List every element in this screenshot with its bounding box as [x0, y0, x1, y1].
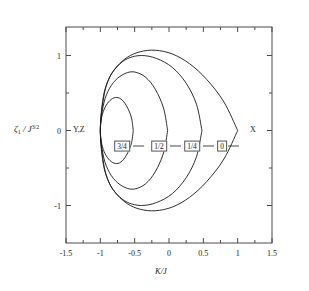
- axis-frame: [66, 27, 272, 243]
- y-tick-label: 0: [57, 126, 61, 135]
- figure-container: ζ1 / J3/2 K/J Y,Z X -1.5-1-0.500.511.510…: [0, 0, 309, 291]
- curve-label-box: 0: [217, 141, 227, 152]
- y-axis-title-superscript: 3/2: [32, 124, 40, 130]
- y-tick-label: 1: [57, 51, 61, 60]
- x-tick-label: 1: [236, 249, 240, 258]
- contour-curves: [100, 50, 237, 211]
- x-tick-label: 0: [167, 249, 171, 258]
- curve-label-box: 1/4: [184, 141, 200, 152]
- curve-label-box: 3/4: [114, 141, 130, 152]
- x-tick-label: 1.5: [267, 249, 277, 258]
- plot-frame: [66, 27, 272, 243]
- x-tick-label: -1: [97, 249, 104, 258]
- contour-curve-3-4: [100, 97, 133, 163]
- annotation-right-point: X: [250, 125, 256, 134]
- x-tick-label: -0.5: [128, 249, 141, 258]
- curve-label-box: 1/2: [151, 141, 167, 152]
- y-tick-label: -1: [54, 201, 61, 210]
- axis-ticks: [66, 27, 272, 243]
- x-tick-label: -1.5: [60, 249, 73, 258]
- y-axis-title-middle: / J: [21, 124, 32, 134]
- contour-curve-1-2: [100, 72, 167, 189]
- x-axis-title: K/J: [155, 266, 167, 276]
- contour-curve-0: [100, 50, 237, 211]
- contour-curve-1-4: [100, 56, 202, 206]
- y-axis-title: ζ1 / J3/2: [14, 124, 39, 135]
- annotation-left-point: Y,Z: [73, 125, 85, 134]
- x-tick-label: 0.5: [198, 249, 208, 258]
